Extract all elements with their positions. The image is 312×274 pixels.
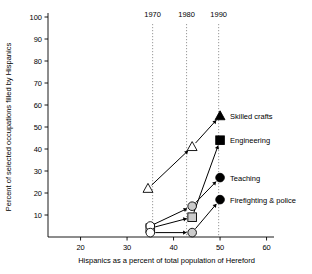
series-firefighting-police-segment (195, 204, 216, 229)
y-tick-label: 70 (34, 79, 42, 88)
series-engineering-segment (155, 219, 187, 227)
y-tick-label: 90 (34, 35, 42, 44)
marker-teaching-1 (188, 202, 197, 211)
y-tick-label: 30 (34, 167, 42, 176)
legend-label-engineering: Engineering (230, 136, 270, 145)
legend-label-teaching: Teaching (230, 174, 260, 183)
y-tick-label: 40 (34, 145, 42, 154)
year-label-1990: 1990 (210, 10, 227, 19)
marker-firefighting-police-0 (146, 228, 155, 237)
series-skilled-crafts-segment (152, 151, 188, 186)
y-axis-title-group: Percent of selected occupations filled b… (4, 43, 13, 212)
year-label-1980: 1980 (178, 10, 195, 19)
legend-item-engineering: Engineering (216, 136, 270, 145)
chart-canvas: 102030405060708090100 2030405060 Skilled… (0, 0, 312, 274)
legend-label-skilled-crafts: Skilled crafts (230, 112, 273, 121)
marker-firefighting-police-1 (188, 228, 197, 237)
legend-marker-engineering (216, 136, 225, 145)
series-teaching-segment (196, 182, 216, 203)
y-axis: 102030405060708090100 (29, 13, 48, 237)
y-tick-label: 80 (34, 57, 42, 66)
legend-label-firefighting-police: Firefighting & police (230, 196, 296, 205)
series-engineering-segment (194, 145, 218, 212)
x-axis-title: Hispanics as a percent of total populati… (78, 256, 255, 265)
x-tick-label: 60 (262, 243, 270, 252)
year-label-1970: 1970 (144, 10, 161, 19)
series-skilled-crafts-segment (196, 120, 217, 143)
legend-marker-teaching (216, 173, 225, 182)
x-tick-label: 30 (123, 243, 131, 252)
legend-marker-firefighting-police (216, 195, 225, 204)
x-tick-label: 40 (169, 243, 177, 252)
chart-figure: 102030405060708090100 2030405060 Skilled… (0, 0, 312, 274)
legend-item-skilled-crafts: Skilled crafts (215, 111, 273, 121)
series-firefighting-police-arrowhead (183, 230, 186, 234)
x-tick-label: 50 (216, 243, 224, 252)
series-engineering-arrowhead (183, 217, 187, 221)
y-tick-label: 20 (34, 189, 42, 198)
y-axis-title: Percent of selected occupations filled b… (4, 43, 13, 212)
y-tick-label: 50 (34, 123, 42, 132)
year-guide-lines (153, 24, 219, 237)
x-tick-label: 20 (76, 243, 84, 252)
series-teaching-segment (155, 209, 187, 224)
x-axis: 2030405060 (48, 237, 274, 252)
legend-marker-skilled-crafts (215, 111, 225, 120)
year-labels: 197019801990 (144, 10, 227, 19)
legend-item-firefighting-police: Firefighting & police (216, 195, 296, 204)
series-engineering (146, 145, 219, 232)
marker-engineering-1 (188, 213, 197, 222)
chart-legend: Skilled craftsEngineeringTeachingFirefig… (215, 111, 296, 205)
y-tick-label: 10 (34, 211, 42, 220)
y-tick-label: 60 (34, 101, 42, 110)
legend-item-teaching: Teaching (216, 173, 260, 182)
y-tick-label: 100 (29, 13, 42, 22)
series-teaching (146, 182, 216, 231)
data-series-group (143, 120, 219, 237)
